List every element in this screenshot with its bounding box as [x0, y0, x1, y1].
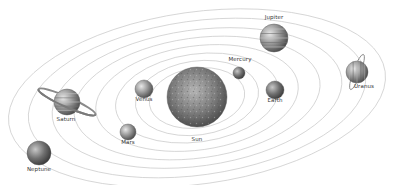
venus-label: Venus	[135, 96, 152, 102]
neptune-icon	[27, 141, 51, 165]
uranus-label: Uranus	[354, 83, 374, 89]
saturn-label: Saturn	[57, 116, 76, 122]
diagram-canvas	[0, 0, 400, 185]
jupiter-label: Jupiter	[265, 14, 284, 20]
earth-label: Earth	[267, 97, 282, 103]
jupiter-icon	[260, 24, 288, 52]
solar-system-diagram: SunMercuryVenusEarthMarsJupiterSaturnUra…	[0, 0, 400, 185]
sun-icon	[167, 67, 227, 127]
neptune-label: Neptune	[27, 166, 51, 172]
mercury-icon	[233, 67, 245, 79]
mars-label: Mars	[121, 139, 135, 145]
saturn-icon	[36, 85, 97, 119]
mars-icon	[120, 124, 136, 140]
mercury-label: Mercury	[229, 56, 252, 62]
sun-label: Sun	[192, 136, 203, 142]
